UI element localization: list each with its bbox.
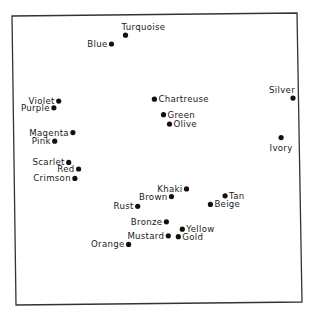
data-point-marker <box>164 219 169 224</box>
data-point-marker <box>109 41 114 46</box>
data-point-marker <box>51 105 56 110</box>
point-turquoise: Turquoise <box>121 22 166 38</box>
data-point-label: Rust <box>114 201 134 211</box>
data-point-marker <box>176 234 181 239</box>
data-point-marker <box>279 135 284 140</box>
data-point-marker <box>76 166 81 171</box>
point-orange: Orange <box>91 239 131 249</box>
data-point-marker <box>152 97 157 102</box>
data-point-marker <box>161 112 166 117</box>
data-point-marker <box>56 99 61 104</box>
data-point-marker <box>72 176 77 181</box>
points-layer: TurquoiseBlueVioletPurpleChartreuseSilve… <box>21 22 296 249</box>
data-point-label: Bronze <box>131 217 163 227</box>
point-crimson: Crimson <box>33 173 77 183</box>
data-point-marker <box>52 139 57 144</box>
data-point-label: Crimson <box>33 173 71 183</box>
data-point-marker <box>169 194 174 199</box>
data-point-marker <box>184 186 189 191</box>
point-olive: Olive <box>167 119 197 129</box>
data-point-marker <box>223 193 228 198</box>
data-point-label: Purple <box>21 103 50 113</box>
data-point-label: Olive <box>174 119 197 129</box>
point-pink: Pink <box>32 136 58 146</box>
point-silver: Silver <box>269 85 296 101</box>
data-point-marker <box>70 130 75 135</box>
data-point-label: Beige <box>214 199 240 209</box>
point-mustard: Mustard <box>127 231 171 241</box>
point-chartreuse: Chartreuse <box>152 94 209 104</box>
data-point-label: Turquoise <box>121 22 166 32</box>
point-rust: Rust <box>114 201 141 211</box>
data-point-label: Gold <box>182 232 203 242</box>
data-point-label: Brown <box>139 192 167 202</box>
data-point-marker <box>123 33 128 38</box>
data-point-label: Silver <box>269 85 295 95</box>
data-point-label: Orange <box>91 239 125 249</box>
data-point-marker <box>208 202 213 207</box>
data-point-marker <box>135 204 140 209</box>
point-bronze: Bronze <box>131 217 169 227</box>
data-point-marker <box>126 242 131 247</box>
data-point-label: Mustard <box>127 231 164 241</box>
point-beige: Beige <box>208 199 240 209</box>
data-point-marker <box>166 233 171 238</box>
data-point-label: Blue <box>87 39 107 49</box>
point-blue: Blue <box>87 39 114 49</box>
data-point-label: Ivory <box>270 143 293 153</box>
data-point-marker <box>290 96 295 101</box>
point-gold: Gold <box>176 232 204 242</box>
scatter-chart: TurquoiseBlueVioletPurpleChartreuseSilve… <box>0 0 310 317</box>
data-point-label: Pink <box>32 136 51 146</box>
data-point-label: Chartreuse <box>158 94 208 104</box>
point-ivory: Ivory <box>270 135 293 153</box>
data-point-marker <box>167 122 172 127</box>
